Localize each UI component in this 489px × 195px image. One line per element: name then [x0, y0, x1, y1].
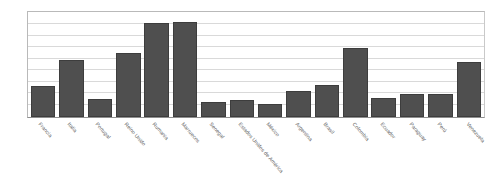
- x-axis-tick-label: Colombia: [351, 121, 370, 142]
- bar-slot: [171, 12, 199, 117]
- bar[interactable]: [144, 23, 168, 117]
- bar-slot: [455, 12, 483, 117]
- x-axis-tick-label: Marruecos: [180, 121, 201, 144]
- bar[interactable]: [343, 48, 367, 117]
- x-axis-tick-label: Francia: [38, 121, 54, 138]
- bar[interactable]: [315, 85, 339, 117]
- bar[interactable]: [371, 98, 395, 117]
- x-axis-tick-label: Paraguay: [408, 121, 427, 142]
- plot-area: [27, 11, 485, 118]
- bar[interactable]: [201, 102, 225, 117]
- x-axis-tick-label: Senegal: [209, 121, 226, 140]
- x-axis-label-slot: Brasil: [313, 119, 342, 193]
- bar[interactable]: [88, 99, 112, 117]
- x-axis: FranciaItaliaPortugalReino UnidoRumaniaM…: [27, 119, 485, 193]
- bar-slot: [86, 12, 114, 117]
- x-axis-tick-label: Perú: [437, 121, 449, 133]
- bar[interactable]: [230, 100, 254, 117]
- bar-slot: [284, 12, 312, 117]
- bar[interactable]: [116, 53, 140, 117]
- bar-slot: [143, 12, 171, 117]
- x-axis-label-slot: Rumania: [142, 119, 171, 193]
- bar-chart: FranciaItaliaPortugalReino UnidoRumaniaM…: [0, 0, 489, 195]
- x-axis-label-slot: Paraguay: [399, 119, 428, 193]
- bar-slot: [341, 12, 369, 117]
- x-axis-tick-label: Rumania: [152, 121, 170, 141]
- bar-slot: [199, 12, 227, 117]
- bar-series: [28, 12, 484, 117]
- bar[interactable]: [286, 91, 310, 117]
- bar-slot: [114, 12, 142, 117]
- bar[interactable]: [457, 62, 481, 117]
- bar[interactable]: [258, 104, 282, 117]
- x-axis-tick-label: Portugal: [95, 121, 112, 140]
- x-axis-tick-label: Venezuela: [465, 121, 486, 144]
- bar-slot: [256, 12, 284, 117]
- x-axis-label-slot: Perú: [427, 119, 456, 193]
- x-axis-label-slot: México: [256, 119, 285, 193]
- x-axis-label-slot: Colombia: [342, 119, 371, 193]
- x-axis-label-slot: Argentina: [285, 119, 314, 193]
- bar-slot: [370, 12, 398, 117]
- bar-slot: [228, 12, 256, 117]
- bar-slot: [313, 12, 341, 117]
- x-axis-label-slot: Estados Unidos de América: [228, 119, 257, 193]
- x-axis-label-slot: Ecuador: [370, 119, 399, 193]
- x-axis-tick-label: Italia: [66, 121, 78, 133]
- y-axis: [0, 7, 26, 121]
- x-axis-label-slot: Marruecos: [171, 119, 200, 193]
- x-axis-label-slot: Italia: [57, 119, 86, 193]
- bar-slot: [57, 12, 85, 117]
- bar-slot: [398, 12, 426, 117]
- x-axis-label-slot: Venezuela: [456, 119, 485, 193]
- x-axis-tick-label: Argentina: [294, 121, 313, 142]
- bar[interactable]: [400, 94, 424, 117]
- x-axis-label-slot: Portugal: [85, 119, 114, 193]
- x-axis-label-slot: Reino Unido: [114, 119, 143, 193]
- bar-slot: [29, 12, 57, 117]
- bar[interactable]: [428, 94, 452, 117]
- bar[interactable]: [31, 86, 55, 117]
- x-axis-label-slot: Senegal: [199, 119, 228, 193]
- bar-slot: [426, 12, 454, 117]
- bar[interactable]: [59, 60, 83, 117]
- x-axis-tick-label: México: [266, 121, 282, 138]
- bar[interactable]: [173, 22, 197, 117]
- x-axis-tick-label: Brasil: [323, 121, 336, 135]
- x-axis-label-slot: Francia: [28, 119, 57, 193]
- x-axis-tick-label: Ecuador: [380, 121, 397, 140]
